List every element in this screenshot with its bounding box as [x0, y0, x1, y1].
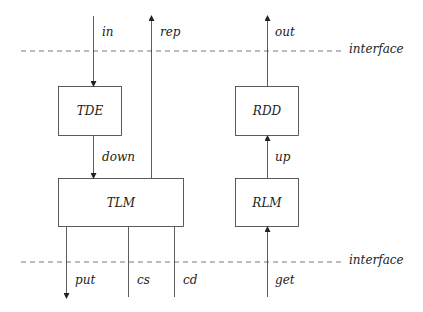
put-label: put	[75, 274, 95, 286]
interface-label-bottom: interface	[349, 254, 404, 266]
diagram-canvas: interface interface TDE TLM RDD RLM in r…	[0, 0, 423, 312]
tde-label: TDE	[59, 87, 121, 135]
interface-label-top: interface	[349, 43, 404, 55]
down-label: down	[102, 151, 135, 163]
rdd-label: RDD	[236, 87, 298, 135]
cs-label: cs	[137, 274, 150, 286]
tlm-label: TLM	[59, 179, 183, 226]
cd-label: cd	[183, 274, 197, 286]
get-label: get	[275, 274, 295, 286]
rep-label: rep	[160, 26, 181, 38]
rlm-label: RLM	[236, 179, 298, 226]
in-label: in	[102, 26, 114, 38]
up-label: up	[275, 151, 290, 163]
out-label: out	[275, 26, 295, 38]
